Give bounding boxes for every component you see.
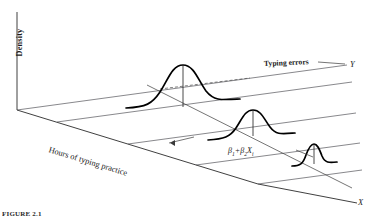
figure-caption: FIGURE 2.1 (2, 210, 42, 220)
density-curve-2 (208, 110, 295, 140)
regression-diagram-svg (0, 0, 370, 220)
equation-subvar: i (252, 151, 254, 157)
population-regression-line (147, 85, 352, 188)
typing-errors-label: Typing errors (264, 57, 309, 68)
hours-leader-arrowhead (170, 140, 175, 146)
x-axis-tick-label: X (358, 198, 363, 207)
y-axis-line (17, 65, 347, 110)
density-axis-label: Density (15, 8, 24, 78)
x-axis-line (258, 184, 357, 203)
typing-errors-leader-line (318, 62, 345, 64)
baseline-front-edge (258, 170, 362, 184)
equation-leader-line (296, 150, 313, 157)
y-axis-tick-label: Y (350, 60, 355, 69)
figure-container: Density Typing errors Hours of typing pr… (0, 0, 370, 220)
regression-equation-label: β1+β2Xi (228, 146, 254, 157)
mean-guide-dashed-line (160, 78, 250, 89)
